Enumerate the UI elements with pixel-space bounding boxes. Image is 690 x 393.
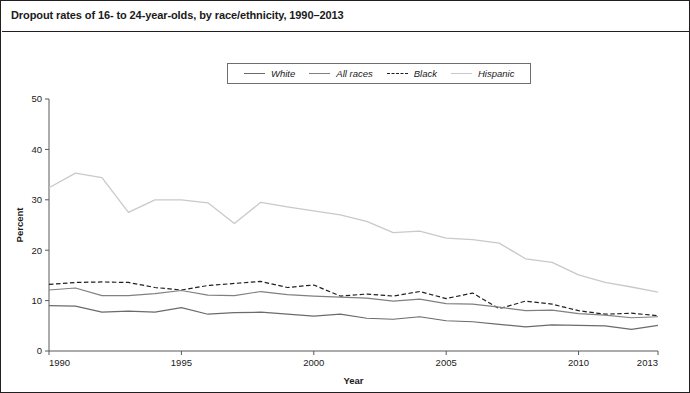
x-tick-label: 2000 [303, 357, 324, 368]
y-tick-label: 20 [31, 245, 42, 256]
y-tick-label: 30 [31, 194, 42, 205]
series-line-black [49, 281, 658, 315]
chart-svg: 01020304050199019952000200520102013YearP… [1, 1, 690, 393]
series-line-white [49, 306, 658, 330]
chart-figure: Dropout rates of 16- to 24-year-olds, by… [0, 0, 690, 393]
y-tick-label: 10 [31, 295, 42, 306]
y-tick-label: 40 [31, 144, 42, 155]
series-line-all-races [49, 288, 658, 318]
axes-group [45, 99, 658, 355]
x-tick-label: 1995 [171, 357, 192, 368]
series-line-hispanic [49, 173, 658, 292]
x-tick-label: 2005 [436, 357, 457, 368]
axis-labels-group: 01020304050199019952000200520102013YearP… [14, 93, 658, 386]
x-tick-label: 2013 [637, 357, 658, 368]
x-axis-title: Year [343, 375, 363, 386]
plot-area: 01020304050199019952000200520102013YearP… [1, 1, 690, 393]
y-tick-label: 0 [37, 345, 42, 356]
y-axis-title: Percent [14, 207, 25, 243]
series-group [49, 173, 658, 329]
x-tick-label: 2010 [568, 357, 589, 368]
y-tick-label: 50 [31, 93, 42, 104]
x-tick-label: 1990 [49, 357, 70, 368]
